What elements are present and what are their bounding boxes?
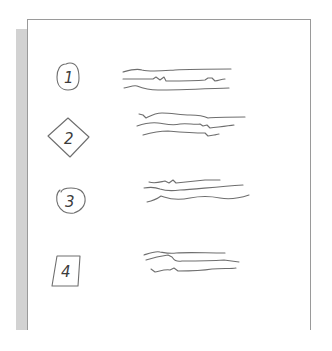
squiggle-text-line [151,268,236,272]
item-number: 2 [64,130,74,148]
squiggle-text-line [123,77,225,81]
item-number: 4 [61,263,71,281]
list-item-1: 1 [57,63,231,90]
squiggle-text-line [143,131,219,136]
squiggle-text-line [149,180,220,183]
list-item-3: 3 [57,180,249,213]
item-number: 1 [64,69,74,87]
squiggle-text-line [147,195,249,202]
list-item-4: 4 [52,252,239,286]
squiggle-text-line [144,252,225,255]
list-item-2: 2 [48,113,245,157]
item-number: 3 [65,193,75,211]
sketch-layer: 1 2 3 4 [0,0,332,351]
squiggle-text-line [146,255,239,262]
squiggle-text-line [137,123,234,128]
squiggle-text-line [144,185,243,191]
squiggle-text-line [123,69,231,72]
squiggle-text-line [124,86,229,90]
wireframe-canvas: 1 2 3 4 [0,0,332,351]
squiggle-text-line [139,113,245,118]
